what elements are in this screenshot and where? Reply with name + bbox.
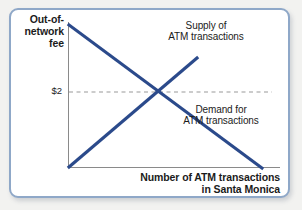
supply-curve-label: Supply ofATM transactions [150,20,262,42]
y-axis-label-line2: network [24,25,64,37]
chart-screenshot: Out-of-networkfee Supply ofATM transacti… [0,0,302,210]
demand-curve-label: Demand forATM transactions [166,104,276,126]
demand-curve-label-line2: ATM transactions [183,115,258,126]
equilibrium-price-label: $2 [40,86,62,97]
supply-curve-label-line1: Supply of [186,20,227,31]
x-axis-label: Number of ATM transactionsin Santa Monic… [122,172,280,196]
y-axis-label: Out-of-networkfee [12,14,64,49]
x-axis-label-line2: in Santa Monica [202,183,280,195]
demand-curve-label-line1: Demand for [195,104,246,115]
demand-curve [69,25,262,168]
y-axis-label-line1: Out-of- [30,13,64,25]
y-axis-label-line3: fee [49,37,64,49]
supply-curve-label-line2: ATM transactions [168,31,243,42]
x-axis-label-line1: Number of ATM transactions [140,171,280,183]
